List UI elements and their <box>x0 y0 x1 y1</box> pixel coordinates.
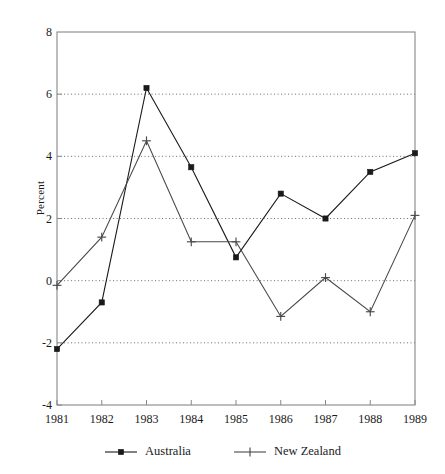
data-point-marker <box>189 165 194 170</box>
x-tick-marks <box>57 400 415 405</box>
data-point-marker <box>233 255 238 260</box>
chart-figure: Percent -4-202468 1981198219831984198519… <box>0 0 445 474</box>
series-line <box>57 141 415 317</box>
data-point-marker <box>54 346 59 351</box>
legend-square-marker-icon <box>104 446 138 458</box>
series-new-zealand <box>53 136 420 320</box>
legend-label: Australia <box>145 444 191 459</box>
legend-label: New Zealand <box>274 444 341 459</box>
legend-marker <box>118 449 123 454</box>
legend-item-australia[interactable]: Australia <box>104 444 191 459</box>
legend-plus-marker-icon <box>233 446 267 458</box>
plot-area <box>0 0 445 474</box>
chart-legend: AustraliaNew Zealand <box>0 444 445 459</box>
data-point-marker <box>368 169 373 174</box>
data-point-marker <box>412 151 417 156</box>
data-point-marker <box>99 300 104 305</box>
data-point-marker <box>323 216 328 221</box>
legend-item-new-zealand[interactable]: New Zealand <box>233 444 341 459</box>
y-tick-marks <box>57 94 62 405</box>
data-point-marker <box>278 191 283 196</box>
data-point-marker <box>144 85 149 90</box>
